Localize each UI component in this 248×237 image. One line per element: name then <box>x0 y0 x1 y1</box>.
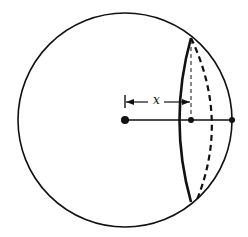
arrow-left-icon <box>126 99 134 105</box>
sphere-cap-diagram <box>0 0 248 237</box>
edge-point <box>229 117 235 123</box>
center-point <box>121 116 129 124</box>
distance-label: x <box>153 94 160 106</box>
plane-point <box>188 117 194 123</box>
arrow-right-icon <box>182 99 190 105</box>
